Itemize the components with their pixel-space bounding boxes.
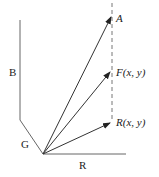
rgb-vector-diagram: B G R A F(x, y) R(x, y): [0, 0, 159, 177]
r-axis-label: R: [79, 159, 87, 171]
vector-a-arrow: [43, 17, 111, 154]
vector-f-arrow: [43, 72, 110, 154]
vector-f-label: F(x, y): [115, 66, 146, 79]
vector-r-arrow: [43, 123, 110, 154]
vector-a-label: A: [115, 12, 123, 24]
vector-r-label: R(x, y): [115, 116, 146, 129]
g-axis-label: G: [21, 138, 29, 150]
b-axis-label: B: [9, 66, 16, 78]
